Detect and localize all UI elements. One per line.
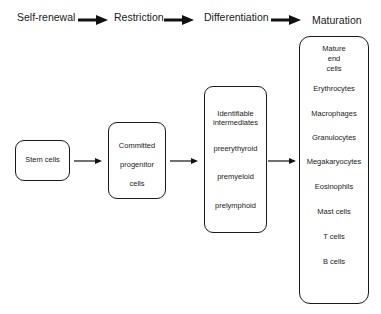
mature-item: T cells <box>300 232 368 241</box>
mature-item: Megakaryocytes <box>300 157 368 166</box>
mature-cells-box: Mature end cells Erythrocytes Macrophage… <box>299 36 369 304</box>
progenitor-label-2: progenitor <box>109 160 165 169</box>
mature-item: B cells <box>300 257 368 266</box>
big-arrow-icon <box>78 15 108 25</box>
arrow-icon <box>170 157 198 165</box>
mature-title-1: Mature <box>300 44 368 53</box>
stage-self-renewal: Self-renewal <box>17 11 75 23</box>
mature-title-3: cells <box>300 64 368 73</box>
progenitor-box: Committed progenitor cells <box>108 122 166 199</box>
mature-item: Macrophages <box>300 109 368 118</box>
stem-cells-box: Stem cells <box>15 140 70 181</box>
mature-item: Granulocytes <box>300 133 368 142</box>
intermediates-title-2: intermediates <box>205 118 266 127</box>
progenitor-label-3: cells <box>109 179 165 188</box>
stage-restriction: Restriction <box>114 11 164 23</box>
big-arrow-icon <box>271 15 301 25</box>
intermediates-title-1: Identifiable <box>205 109 266 118</box>
intermediate-item: prelymphoid <box>205 201 266 210</box>
mature-item: Erythrocytes <box>300 84 368 93</box>
stage-differentiation: Differentiation <box>204 11 269 23</box>
mature-title-2: end <box>300 54 368 63</box>
stem-cells-label: Stem cells <box>16 155 69 164</box>
intermediate-item: preerythyroid <box>205 144 266 153</box>
intermediate-item: premyeloid <box>205 172 266 181</box>
arrow-icon <box>74 157 102 165</box>
mature-item: Mast cells <box>300 207 368 216</box>
big-arrow-icon <box>164 15 194 25</box>
intermediates-box: Identifiable intermediates preerythyroid… <box>204 86 267 233</box>
stage-maturation: Maturation <box>312 14 362 26</box>
arrow-icon <box>268 157 296 165</box>
progenitor-label-1: Committed <box>109 141 165 150</box>
mature-item: Eosinophils <box>300 182 368 191</box>
